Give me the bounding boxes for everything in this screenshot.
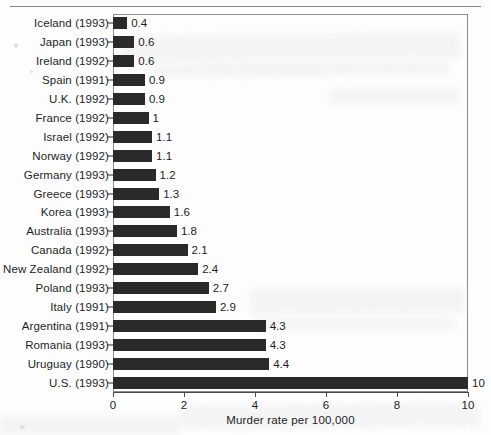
bar <box>113 377 468 389</box>
bar <box>113 74 145 86</box>
category-label: Canada (1992) <box>31 244 109 256</box>
bar <box>113 17 127 29</box>
x-axis-tick-label: 6 <box>323 399 329 411</box>
category-label: U.K. (1992) <box>49 93 109 105</box>
bar-row: Ireland (1992)0.6 <box>0 52 491 71</box>
category-label: Spain (1991) <box>42 74 109 86</box>
x-axis-line <box>113 392 468 393</box>
category-label: Ireland (1992) <box>36 55 109 67</box>
bar-value-label: 2.4 <box>202 263 218 275</box>
bar-value-label: 0.6 <box>138 36 154 48</box>
x-axis-title: Murder rate per 100,000 <box>113 414 468 426</box>
bar-rows: Iceland (1993)0.4Japan (1993)0.6Ireland … <box>0 14 491 392</box>
category-label: Romania (1993) <box>25 339 109 351</box>
category-label: Australia (1993) <box>26 225 109 237</box>
bar-value-label: 1.1 <box>156 150 172 162</box>
category-label: New Zealand (1992) <box>3 263 109 275</box>
bar <box>113 263 198 275</box>
bar-row: Israel (1992)1.1 <box>0 127 491 146</box>
bar-value-label: 1.2 <box>160 169 176 181</box>
bar-row: Greece (1993)1.3 <box>0 184 491 203</box>
category-label: Uruguay (1990) <box>28 358 109 370</box>
x-axis-tick-label: 4 <box>252 399 258 411</box>
bar-row: France (1992)1 <box>0 109 491 128</box>
bar <box>113 131 152 143</box>
x-axis-tick-label: 8 <box>394 399 400 411</box>
category-label: Iceland (1993) <box>34 17 109 29</box>
bar <box>113 36 134 48</box>
bar-row: Argentina (1991)4.3 <box>0 316 491 335</box>
category-label: France (1992) <box>35 112 109 124</box>
bar-value-label: 4.4 <box>273 358 289 370</box>
bar-row: Uruguay (1990)4.4 <box>0 354 491 373</box>
bar-row: Spain (1991)0.9 <box>0 71 491 90</box>
bar <box>113 358 269 370</box>
bar-value-label: 4.3 <box>270 320 286 332</box>
bar <box>113 150 152 162</box>
category-label: Germany (1993) <box>24 169 109 181</box>
bar-row: Korea (1993)1.6 <box>0 203 491 222</box>
bar <box>113 112 149 124</box>
bar-row: U.K. (1992)0.9 <box>0 90 491 109</box>
bar-row: Poland (1993)2.7 <box>0 279 491 298</box>
bar-value-label: 1.8 <box>181 225 197 237</box>
chart-page: Iceland (1993)0.4Japan (1993)0.6Ireland … <box>0 0 491 435</box>
bar <box>113 282 209 294</box>
bar-value-label: 2.7 <box>213 282 229 294</box>
bar-row: Germany (1993)1.2 <box>0 165 491 184</box>
category-label: Greece (1993) <box>34 188 109 200</box>
category-label: Korea (1993) <box>41 206 109 218</box>
bar-value-label: 0.4 <box>131 17 147 29</box>
bar-row: U.S. (1993)10 <box>0 373 491 392</box>
category-label: Italy (1991) <box>50 301 109 313</box>
bar-value-label: 4.3 <box>270 339 286 351</box>
bar-value-label: 0.6 <box>138 55 154 67</box>
bar <box>113 55 134 67</box>
bar-row: Japan (1993)0.6 <box>0 33 491 52</box>
bar <box>113 188 159 200</box>
bar-value-label: 2.9 <box>220 301 236 313</box>
bar-row: New Zealand (1992)2.4 <box>0 260 491 279</box>
x-axis-tick <box>113 392 114 397</box>
bar-value-label: 1.3 <box>163 188 179 200</box>
x-axis-tick <box>326 392 327 397</box>
bar-value-label: 2.1 <box>192 244 208 256</box>
bar <box>113 93 145 105</box>
category-label: Argentina (1991) <box>22 320 109 332</box>
category-label: Norway (1992) <box>32 150 109 162</box>
category-label: Japan (1993) <box>40 36 109 48</box>
bar-row: Romania (1993)4.3 <box>0 335 491 354</box>
bar-row: Australia (1993)1.8 <box>0 222 491 241</box>
bar <box>113 320 266 332</box>
x-axis-tick <box>255 392 256 397</box>
x-axis-tick <box>397 392 398 397</box>
bar-value-label: 0.9 <box>149 93 165 105</box>
bar-value-label: 1 <box>153 112 159 124</box>
scan-speck <box>20 425 25 429</box>
bar-value-label: 1.6 <box>174 206 190 218</box>
x-axis-tick-label: 2 <box>181 399 187 411</box>
category-label: U.S. (1993) <box>49 377 109 389</box>
category-label: Israel (1992) <box>43 131 109 143</box>
x-axis-tick <box>468 392 469 397</box>
bar-row: Norway (1992)1.1 <box>0 146 491 165</box>
category-label: Poland (1993) <box>35 282 109 294</box>
bar-value-label: 0.9 <box>149 74 165 86</box>
bar-value-label: 1.1 <box>156 131 172 143</box>
x-axis-tick-label: 10 <box>462 399 475 411</box>
bar <box>113 225 177 237</box>
page-top-rule <box>10 6 481 7</box>
bar <box>113 244 188 256</box>
bar <box>113 206 170 218</box>
bar <box>113 301 216 313</box>
x-axis-tick <box>184 392 185 397</box>
bar-value-label: 10 <box>472 377 485 389</box>
bar <box>113 169 156 181</box>
bar <box>113 339 266 351</box>
bar-row: Canada (1992)2.1 <box>0 241 491 260</box>
bar-row: Iceland (1993)0.4 <box>0 14 491 33</box>
x-axis-tick-label: 0 <box>110 399 116 411</box>
bar-row: Italy (1991)2.9 <box>0 298 491 317</box>
